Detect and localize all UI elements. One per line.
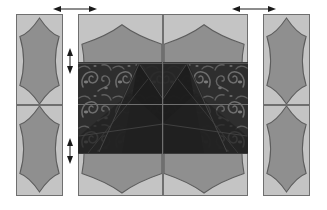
- damask-band: [78, 62, 248, 154]
- double-arrow-horizontal-icon: [53, 3, 97, 15]
- grid-seam-vertical: [162, 14, 163, 196]
- double-arrow-vertical-icon: [64, 48, 76, 74]
- double-arrow-vertical-icon: [64, 138, 76, 164]
- grid-seam-horizontal: [78, 104, 248, 105]
- arrow-mid-upper: [64, 48, 76, 74]
- right-border-upper: [263, 14, 310, 105]
- left-border-panel: [16, 14, 63, 196]
- arrow-top-right: [232, 3, 276, 15]
- vertical-hexagon-icon: [17, 15, 62, 104]
- double-arrow-horizontal-icon: [232, 3, 276, 15]
- arrow-mid-lower: [64, 138, 76, 164]
- vertical-hexagon-icon: [17, 106, 62, 195]
- left-border-lower: [16, 105, 63, 196]
- vertical-hexagon-icon: [264, 15, 309, 104]
- diagram-canvas: [0, 0, 327, 210]
- left-border-upper: [16, 14, 63, 105]
- arrow-top-left: [53, 3, 97, 15]
- right-border-panel: [263, 14, 310, 196]
- right-border-lower: [263, 105, 310, 196]
- vertical-hexagon-icon: [264, 106, 309, 195]
